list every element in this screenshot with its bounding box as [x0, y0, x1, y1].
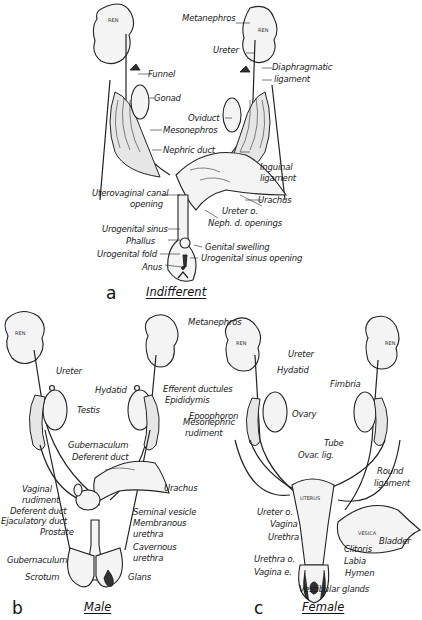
svg-text:REN: REN [236, 340, 247, 346]
label-ureter: Ureter [56, 367, 82, 376]
panel-a-drawing: REN REN [93, 4, 286, 281]
label-prostate: Prostate [40, 528, 74, 537]
label-diaphragmatic-ligament-1: Diaphragmatic [272, 63, 332, 72]
label-funnel: Funnel [148, 70, 175, 79]
panel-a-letter: a [106, 283, 116, 303]
embryology-figure: REN REN REN [0, 0, 422, 620]
svg-text:REN: REN [385, 340, 396, 346]
label-oviduct: Oviduct [188, 114, 219, 123]
label-urethra-o: Urethra o. [254, 555, 295, 564]
svg-text:REN: REN [258, 27, 269, 33]
label-hymen: Hymen [345, 569, 374, 578]
label-ejaculatory-duct: Ejaculatory duct [1, 517, 67, 526]
label-glans: Glans [128, 573, 151, 582]
svg-text:REN: REN [108, 17, 119, 23]
label-urogenital-fold: Urogenital fold [97, 250, 157, 259]
label-nephric-duct: Nephric duct [163, 146, 215, 155]
svg-text:UTERUS: UTERUS [300, 495, 320, 501]
label-clitoris: Clitoris [344, 545, 372, 554]
label-diaphragmatic-ligament-2: ligament [274, 75, 310, 84]
label-ureter-o: Ureter o. [222, 207, 258, 216]
label-ureter: Ureter [288, 350, 314, 359]
svg-text:REN: REN [15, 330, 26, 336]
label-scrotum: Scrotum [25, 573, 59, 582]
panel-b-title: Male [84, 600, 111, 614]
label-genital-swelling: Genital swelling [205, 243, 269, 252]
label-urachus: Urachus [258, 196, 291, 205]
label-epoophoron: Epoophoron [189, 412, 238, 421]
label-deferent-duct-upper: Deferent duct [72, 453, 128, 462]
label-tube: Tube [324, 439, 344, 448]
label-neph-d-openings: Neph. d. openings [208, 219, 282, 228]
label-urethra: Urethra [268, 533, 299, 542]
label-testis: Testis [77, 406, 100, 415]
label-epididymis: Epididymis [165, 396, 209, 405]
panel-c-letter: c [254, 598, 263, 618]
label-inguinal-ligament-1: Inguinal [260, 163, 292, 172]
label-round-ligament-1: Round [377, 467, 403, 476]
label-labia: Labia [344, 557, 366, 566]
label-ovar-lig: Ovar. lig. [298, 451, 334, 460]
label-deferent-duct-lower: Deferent duct [10, 507, 66, 516]
label-efferent-ductules: Efferent ductules [163, 385, 233, 394]
label-bladder: Bladder [379, 537, 411, 546]
label-urachus: Urachus [164, 484, 197, 493]
label-cavernous-urethra-2: urethra [133, 554, 163, 563]
label-fimbria: Fimbria [330, 380, 361, 389]
label-metanephros: Metanephros [182, 14, 235, 23]
label-vagina: Vagina [270, 520, 298, 529]
panel-b-letter: b [12, 598, 23, 618]
label-hydatid: Hydatid [95, 386, 127, 395]
label-inguinal-ligament-2: ligament [260, 174, 296, 183]
label-hydatid: Hydatid [277, 366, 309, 375]
svg-text:VESICA: VESICA [358, 530, 377, 536]
label-metanephros: Metanephros [188, 318, 241, 327]
label-gubernaculum-lower: Gubernaculum [7, 556, 67, 565]
label-vaginal-rudiment-1: Vaginal [22, 485, 52, 494]
label-round-ligament-2: ligament [374, 479, 410, 488]
label-gonad: Gonad [154, 94, 181, 103]
label-phallus: Phallus [126, 237, 155, 246]
panel-a-title: Indifferent [146, 285, 206, 299]
label-uterovaginal-canal-1: Uterovaginal canal [92, 189, 168, 198]
label-urogenital-sinus: Urogenital sinus [102, 225, 168, 234]
label-uterovaginal-canal-2: opening [130, 200, 163, 209]
label-membranous-urethra-2: urethra [133, 530, 163, 539]
label-vaginal-rudiment-2: rudiment [22, 496, 59, 505]
label-ureter: Ureter [213, 46, 239, 55]
label-seminal-vesicle: Seminal vesicle [133, 508, 196, 517]
label-anus: Anus [142, 263, 162, 272]
panel-c-title: Female [302, 600, 344, 614]
label-mesonephros: Mesonephros [163, 126, 218, 135]
label-cavernous-urethra-1: Cavernous [133, 543, 177, 552]
label-membranous-urethra-1: Membranous [133, 519, 186, 528]
label-urogenital-sinus-opening: Urogenital sinus opening [201, 254, 302, 263]
label-ovary: Ovary [292, 410, 316, 419]
label-vestibular-glands: Vestibular glands [299, 585, 369, 594]
label-ureter-o: Ureter o. [257, 508, 293, 517]
label-vagina-e: Vagina e. [254, 568, 292, 577]
label-mesonephric-rudiment-2: rudiment [185, 429, 222, 438]
label-gubernaculum-upper: Gubernaculum [68, 441, 128, 450]
